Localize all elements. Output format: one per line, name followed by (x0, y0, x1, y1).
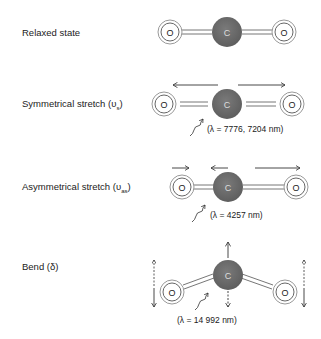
svg-text:O: O (280, 28, 287, 38)
svg-text:O: O (281, 288, 288, 298)
svg-text:O: O (168, 288, 175, 298)
photon-squiggle-icon (192, 205, 205, 222)
svg-text:O: O (160, 100, 167, 110)
molecule-asymmetrical: O C O (λ = 4257 nm) (170, 168, 308, 222)
svg-text:O: O (288, 100, 295, 110)
photon-squiggle-icon (190, 119, 203, 136)
molecule-bend: O C O (λ = 14 992 nm) (154, 242, 304, 325)
molecule-diagram: O C O O C O (λ = 7776, 7204 nm) (0, 0, 321, 339)
svg-text:C: C (224, 100, 231, 110)
svg-text:O: O (292, 183, 299, 193)
svg-text:O: O (178, 183, 185, 193)
svg-text:C: C (224, 28, 231, 38)
wavelength-asymmetrical: (λ = 4257 nm) (210, 210, 263, 220)
photon-squiggle-icon (195, 293, 208, 310)
svg-text:C: C (225, 271, 232, 281)
wavelength-bend: (λ = 14 992 nm) (177, 315, 237, 325)
svg-text:O: O (166, 28, 173, 38)
wavelength-symmetrical: (λ = 7776, 7204 nm) (207, 124, 283, 134)
molecule-relaxed: O C O (158, 17, 296, 47)
molecule-symmetrical: O C O (λ = 7776, 7204 nm) (152, 85, 304, 136)
svg-text:C: C (225, 183, 232, 193)
